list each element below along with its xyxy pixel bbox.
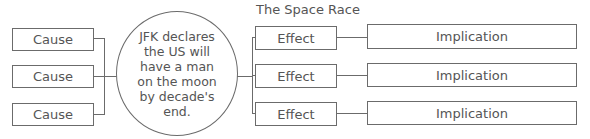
cause-connector-2 [94, 76, 104, 77]
implication-connector-3 [337, 113, 367, 114]
center-event-text: JFK declares the US will have a man on t… [131, 29, 223, 119]
cause-box-2: Cause [12, 65, 94, 88]
implication-box-3: Implication [367, 101, 577, 125]
implication-box-2: Implication [367, 63, 577, 87]
effect-box-1: Effect [255, 26, 337, 50]
implication-box-1: Implication [367, 24, 577, 49]
cause-connector-3 [94, 114, 104, 115]
cause-box-1: Cause [12, 28, 94, 51]
effect-box-3: Effect [255, 102, 337, 126]
implication-connector-1 [337, 37, 367, 38]
cause-connector-1 [94, 38, 104, 39]
diagram-title: The Space Race [256, 2, 360, 17]
cause-box-3: Cause [12, 103, 94, 126]
center-to-effect-connector [237, 76, 252, 77]
cause-to-center-connector [104, 76, 117, 77]
center-event-circle: JFK declares the US will have a man on t… [116, 11, 238, 136]
implication-connector-2 [337, 75, 367, 76]
effect-box-2: Effect [255, 64, 337, 88]
